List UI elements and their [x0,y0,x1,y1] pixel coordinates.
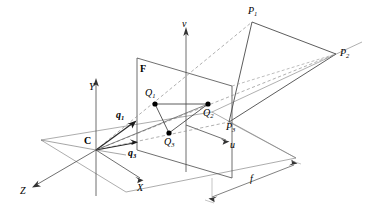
world-point-label-P2-sub: 2 [346,52,349,59]
world-point-label-P3-sub: 3 [232,126,235,133]
image-point-label-Q2: Q2 [203,108,213,119]
axis-y-label: Y [89,82,95,92]
axis-z-arrowhead [32,181,41,188]
world-point-label-P1: P1 [248,6,257,17]
axis-z-label: Z [20,186,26,196]
camera-center-label: C [84,136,91,146]
image-point-label-Q2-sub: 2 [210,112,213,119]
image-plane-group [137,58,232,178]
world-plane-edge-lower [229,122,296,158]
world-plane-edge-diagonal [232,54,336,86]
image-point-label-Q3: Q3 [164,137,174,148]
image-point-dot-Q3 [166,130,171,135]
axis-v-label: v [182,19,186,29]
ground-plane [41,112,296,192]
vector-q1-label-sub: 1 [121,114,124,121]
vector-q1-label: q1 [116,110,124,121]
projection-ray-2 [96,54,336,150]
focal-dimension-line [212,165,294,197]
world-triangle-P1P2P3 [229,22,336,122]
axis-u-label: u [230,140,235,150]
image-plane-label: F [140,64,146,74]
image-point-dot-Q1 [152,101,157,106]
ground-plane-group [41,112,296,192]
projection-rays-group [96,22,336,150]
projection-diagram-svg [0,0,369,213]
vector-q3-label-sub: 3 [133,152,136,159]
image-plane-F [137,58,232,178]
axis-x-label: X [137,183,143,193]
focal-length-label: f [250,174,253,184]
focal-arrow-right [289,160,298,166]
world-point-label-P3: P3 [226,122,235,133]
image-point-label-Q1: Q1 [145,88,155,99]
image-point-dot-Q2 [205,101,210,106]
image-point-label-Q1-sub: 1 [152,92,155,99]
image-point-label-Q3-sub: 3 [171,141,174,148]
world-point-label-P1-sub: 1 [254,10,257,17]
vector-q3-label: q3 [128,148,136,159]
world-point-label-P2: P2 [340,48,349,59]
axis-u-line [186,125,226,140]
world-triangle-group [212,22,362,158]
projection-figure: C F X Y Z u v f q1 q3 Q1 Q2 Q3 P1 P2 P3 [0,0,369,213]
